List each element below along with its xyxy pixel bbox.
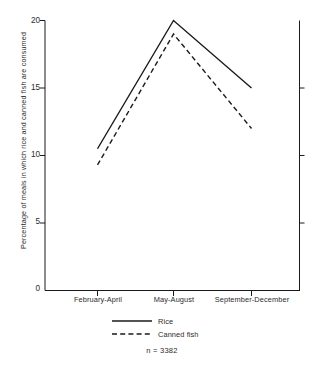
- sample-size-annotation: n = 3382: [102, 346, 222, 355]
- legend-label-canned-fish: Canned fish: [158, 330, 199, 339]
- x-tick-label-september-december: September-December: [202, 295, 302, 304]
- x-tick-label-february-april: February-April: [52, 295, 144, 304]
- series-line-rice: [98, 21, 252, 149]
- plot-area: [0, 0, 324, 366]
- chart-figure: Percentage of meals in which rice and ca…: [0, 0, 324, 366]
- legend-label-rice: Rice: [158, 317, 173, 326]
- series-line-canned-fish: [98, 34, 252, 165]
